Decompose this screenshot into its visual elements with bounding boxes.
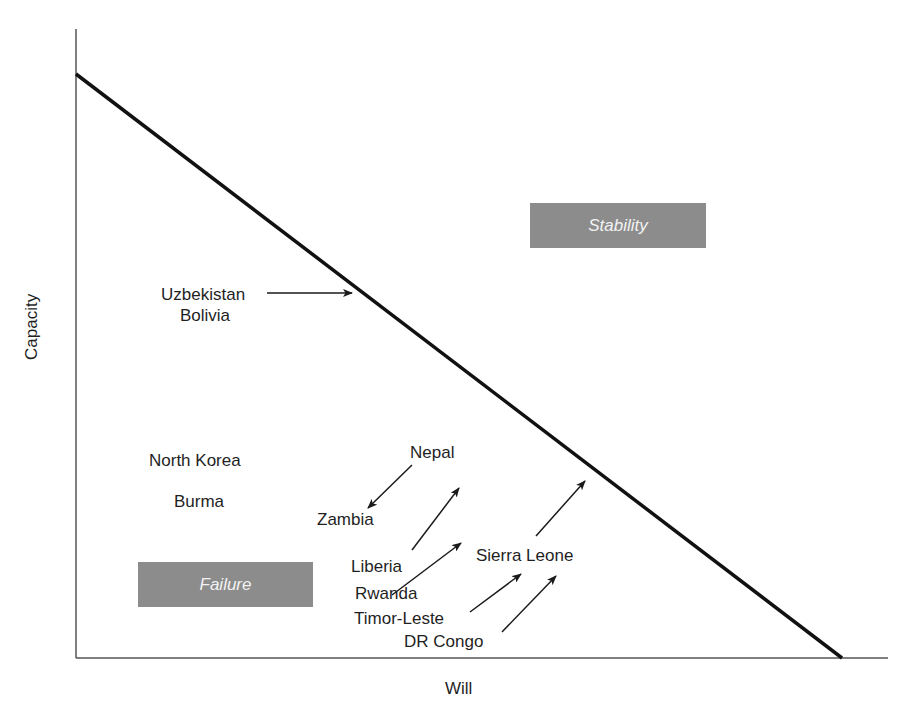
label-sierra-leone: Sierra Leone xyxy=(476,546,573,566)
x-axis-title: Will xyxy=(445,679,472,699)
label-dr-congo: DR Congo xyxy=(404,632,483,652)
label-burma: Burma xyxy=(174,492,224,512)
failure-region-box: Failure xyxy=(138,562,313,607)
label-bolivia: Bolivia xyxy=(180,306,230,326)
arrow-dr-congo xyxy=(502,576,556,632)
arrow-timor-leste xyxy=(470,574,521,612)
stability-label: Stability xyxy=(588,216,648,236)
label-liberia: Liberia xyxy=(351,557,402,577)
y-axis-title: Capacity xyxy=(22,294,42,360)
stability-region-box: Stability xyxy=(530,203,706,248)
label-timor-leste: Timor-Leste xyxy=(354,609,444,629)
arrow-sierra-leone xyxy=(536,481,585,536)
diagram-canvas xyxy=(0,0,908,725)
arrow-nepal-zambia xyxy=(368,465,412,508)
label-north-korea: North Korea xyxy=(149,451,241,471)
label-rwanda: Rwanda xyxy=(355,584,417,604)
failure-label: Failure xyxy=(200,575,252,595)
label-uzbekistan: Uzbekistan xyxy=(161,285,245,305)
label-nepal: Nepal xyxy=(410,443,454,463)
arrow-liberia xyxy=(412,488,459,550)
label-zambia: Zambia xyxy=(317,510,374,530)
